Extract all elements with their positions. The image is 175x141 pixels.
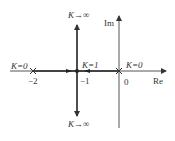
- tick-label-zero: 0: [124, 77, 129, 87]
- real-axis-label: Re: [153, 76, 163, 86]
- breakaway-point: [75, 69, 79, 73]
- tick-label-minus2: −2: [28, 76, 38, 86]
- breakaway-label: K=1: [81, 60, 99, 70]
- asymptote-label-top: K→∞: [67, 10, 89, 20]
- asymptote-label-bottom: K→∞: [67, 119, 89, 129]
- root-locus-diagram: K=0 −2 K=1 −1 K=0 0 Re Im K→∞ K→∞: [0, 0, 175, 141]
- pole-label-zero: K=0: [125, 60, 143, 70]
- imag-axis-label: Im: [104, 18, 114, 28]
- pole-label-minus2: K=0: [10, 61, 28, 71]
- tick-label-minus1: −1: [80, 76, 90, 86]
- locus-arrow-right: [66, 69, 72, 73]
